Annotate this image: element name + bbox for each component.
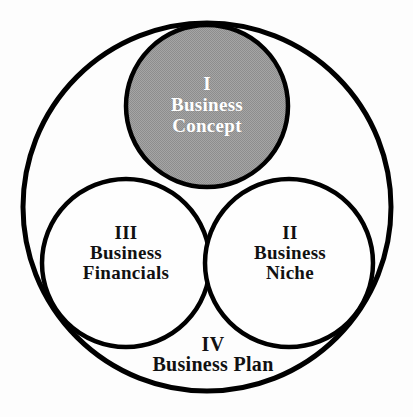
label-line: Business Plan (123, 354, 303, 374)
label-line: Niche (200, 263, 380, 283)
label-line-numeral: IV (123, 334, 303, 354)
label-line: Concept (117, 115, 297, 136)
label-line-numeral: II (200, 223, 380, 243)
business-financials-label: III Business Financials (36, 223, 216, 283)
business-niche-label: II Business Niche (200, 223, 380, 283)
label-line-numeral: I (117, 73, 297, 94)
label-line-numeral: III (36, 223, 216, 243)
label-line: Business (36, 243, 216, 263)
business-plan-venn-diagram: I Business Concept III Business Financia… (0, 0, 413, 417)
label-line: Business (200, 243, 380, 263)
label-line: Financials (36, 263, 216, 283)
label-line: Business (117, 94, 297, 115)
business-concept-label: I Business Concept (117, 73, 297, 136)
business-plan-label: IV Business Plan (123, 334, 303, 374)
